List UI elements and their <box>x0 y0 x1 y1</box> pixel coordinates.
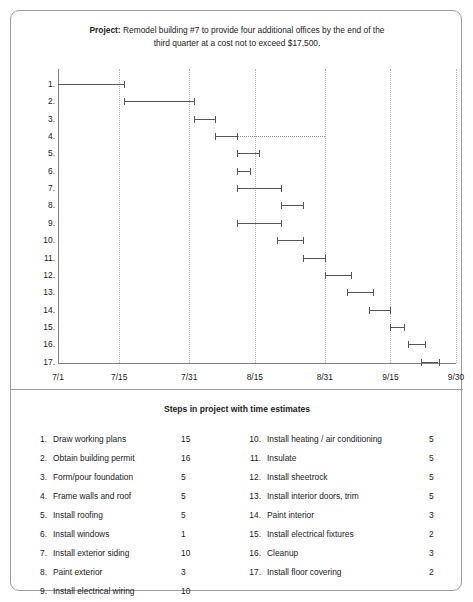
gantt-bar[interactable] <box>237 223 281 224</box>
gantt-bar[interactable] <box>237 153 259 154</box>
gantt-bar-end-cap <box>351 272 352 279</box>
gantt-bar[interactable] <box>277 240 303 241</box>
gantt-bar[interactable] <box>237 188 281 189</box>
gantt-row-label: 17. <box>29 358 55 366</box>
gantt-row-label: 7. <box>29 184 55 192</box>
step-name: Obtain building permit <box>53 449 134 468</box>
step-row: 14.Paint interior3 <box>243 506 453 525</box>
gantt-bar[interactable] <box>325 275 351 276</box>
step-duration-days: 5 <box>429 468 434 487</box>
gantt-row-label: 10. <box>29 236 55 244</box>
gantt-bar-start-cap <box>408 341 409 348</box>
gantt-bar-end-cap <box>439 359 440 366</box>
gridline <box>390 69 391 363</box>
step-number: 8. <box>29 563 47 582</box>
steps-section: Steps in project with time estimates 1.D… <box>11 390 463 591</box>
step-number: 9. <box>29 582 47 601</box>
gantt-row-label: 2. <box>29 97 55 105</box>
gantt-bar-start-cap <box>237 150 238 157</box>
step-row: 13.Install interior doors, trim5 <box>243 487 453 506</box>
gantt-bar-end-cap <box>237 133 238 140</box>
gantt-bar-end-cap <box>325 255 326 262</box>
step-name: Install sheetrock <box>267 468 328 487</box>
step-duration-days: 5 <box>429 487 434 506</box>
step-row: 2.Obtain building permit16 <box>29 449 229 468</box>
step-row: 9.Install electrical wiring10 <box>29 582 229 601</box>
gantt-bar[interactable] <box>303 258 325 259</box>
gantt-row-label: 11. <box>29 254 55 262</box>
step-duration-days: 16 <box>181 449 190 468</box>
gantt-bar[interactable] <box>369 310 391 311</box>
step-name: Cleanup <box>267 544 298 563</box>
step-duration-days: 5 <box>429 430 434 449</box>
y-axis-line <box>58 69 59 364</box>
gantt-bar[interactable] <box>215 136 237 137</box>
gantt-bar[interactable] <box>281 205 303 206</box>
step-number: 2. <box>29 449 47 468</box>
gantt-bar-end-cap <box>303 237 304 244</box>
gantt-row-label: 4. <box>29 132 55 140</box>
step-row: 16.Cleanup3 <box>243 544 453 563</box>
step-row: 1.Draw working plans15 <box>29 430 229 449</box>
step-number: 12. <box>243 468 261 487</box>
steps-title: Steps in project with time estimates <box>11 404 463 414</box>
gantt-row-label-column: 1.2.3.4.5.6.7.8.9.10.11.12.13.14.15.16.1… <box>11 69 55 364</box>
gantt-bar[interactable] <box>408 344 425 345</box>
gantt-bar[interactable] <box>124 101 194 102</box>
step-duration-days: 5 <box>181 506 186 525</box>
step-number: 16. <box>243 544 261 563</box>
step-number: 17. <box>243 563 261 582</box>
gantt-bar-end-cap <box>215 116 216 123</box>
project-chart-card: Project: Remodel building #7 to provide … <box>10 10 462 591</box>
gantt-bar[interactable] <box>58 84 124 85</box>
gridline <box>119 69 120 363</box>
gantt-bar-start-cap <box>390 324 391 331</box>
step-duration-days: 10 <box>181 582 190 601</box>
step-number: 6. <box>29 525 47 544</box>
gridline <box>456 69 457 363</box>
gantt-bar[interactable] <box>390 327 403 328</box>
step-number: 7. <box>29 544 47 563</box>
gantt-row-label: 13. <box>29 288 55 296</box>
steps-column-left: 1.Draw working plans152.Obtain building … <box>29 430 229 601</box>
step-name: Install exterior siding <box>53 544 129 563</box>
x-axis-tick-label: 9/30 <box>436 373 473 382</box>
step-name: Install electrical fixtures <box>267 525 354 544</box>
step-name: Install heating / air conditioning <box>267 430 382 449</box>
step-duration-days: 5 <box>181 468 186 487</box>
gantt-bar[interactable] <box>347 292 373 293</box>
gantt-row-label: 6. <box>29 167 55 175</box>
step-duration-days: 1 <box>181 525 186 544</box>
step-row: 17.Install floor covering2 <box>243 563 453 582</box>
x-axis-tick-label: 7/1 <box>38 373 78 382</box>
step-row: 4.Frame walls and roof5 <box>29 487 229 506</box>
x-axis-tick-label: 8/31 <box>305 373 345 382</box>
gantt-row-label: 1. <box>29 80 55 88</box>
gantt-bar-start-cap <box>277 237 278 244</box>
gantt-bar[interactable] <box>194 119 216 120</box>
x-axis-tick-label: 9/15 <box>370 373 410 382</box>
step-name: Paint exterior <box>53 563 102 582</box>
gantt-dependency-leader <box>237 136 324 137</box>
gantt-bar[interactable] <box>421 362 438 363</box>
gantt-bar-end-cap <box>390 307 391 314</box>
gantt-bar-start-cap <box>325 272 326 279</box>
step-name: Draw working plans <box>53 430 126 449</box>
gantt-row-label: 8. <box>29 201 55 209</box>
gantt-bar-end-cap <box>425 341 426 348</box>
gridline <box>255 69 256 363</box>
step-duration-days: 3 <box>429 506 434 525</box>
step-number: 3. <box>29 468 47 487</box>
gantt-bar[interactable] <box>237 171 250 172</box>
step-number: 10. <box>243 430 261 449</box>
x-axis-line <box>58 363 456 364</box>
step-number: 11. <box>243 449 261 468</box>
step-name: Install roofing <box>53 506 103 525</box>
steps-column-right: 10.Install heating / air conditioning511… <box>243 430 453 582</box>
step-duration-days: 5 <box>181 487 186 506</box>
step-number: 15. <box>243 525 261 544</box>
gantt-row-label: 14. <box>29 306 55 314</box>
step-number: 14. <box>243 506 261 525</box>
gantt-bar-end-cap <box>303 202 304 209</box>
gantt-bar-start-cap <box>124 98 125 105</box>
